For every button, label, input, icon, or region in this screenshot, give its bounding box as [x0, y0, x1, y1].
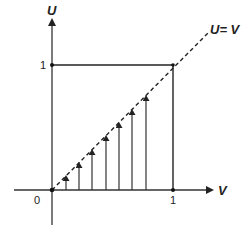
origin-point — [50, 188, 55, 193]
origin-label: 0 — [34, 194, 40, 206]
x-tick-1-label: 1 — [170, 194, 176, 206]
diagonal-line-u-equals-v — [52, 31, 210, 190]
u-axis-label: U — [47, 3, 57, 18]
line-label: U= V — [210, 22, 241, 37]
point-v1 — [171, 188, 175, 192]
point-1-1 — [171, 63, 175, 67]
diagram-canvas: U V U= V 0 1 1 — [0, 0, 252, 239]
point-u1 — [50, 63, 54, 67]
v-axis-label: V — [218, 183, 228, 198]
y-tick-1-label: 1 — [40, 59, 46, 71]
arrow-group — [66, 98, 146, 190]
